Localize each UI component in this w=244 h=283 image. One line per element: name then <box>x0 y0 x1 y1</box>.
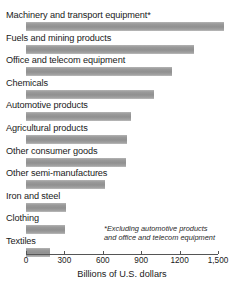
plot-area: Machinery and transport equipment*Fuels … <box>0 0 244 254</box>
bar <box>26 67 172 76</box>
x-axis-tick-label: 1200 <box>170 256 188 266</box>
x-axis-tick-label: 900 <box>134 256 148 266</box>
bar-group: Agricultural products <box>0 123 244 146</box>
x-axis-tick-label: 300 <box>58 256 72 266</box>
footnote-line-1: *Excluding automotive products <box>104 224 240 233</box>
bar-category-label: Automotive products <box>6 100 88 111</box>
bar-category-label: Machinery and transport equipment* <box>6 10 151 21</box>
bar-track <box>26 90 154 99</box>
bar-group: Fuels and mining products <box>0 33 244 56</box>
bar-track <box>26 135 127 144</box>
bar <box>26 158 126 167</box>
bar-category-label: Chemicals <box>6 78 48 89</box>
x-axis-tick-label: 0 <box>24 256 29 266</box>
bar-track <box>26 112 131 121</box>
bar <box>26 135 127 144</box>
footnote-line-2: and office and telecom equipment <box>104 233 240 242</box>
x-axis: 030060090012001,500 Billions of U.S. dol… <box>0 254 244 283</box>
bar-category-label: Agricultural products <box>6 123 88 134</box>
bar-group: Other consumer goods <box>0 146 244 169</box>
bar-category-label: Clothing <box>6 213 39 224</box>
x-axis-tick-label: 600 <box>96 256 110 266</box>
x-axis-tick <box>103 251 104 254</box>
bar-category-label: Other consumer goods <box>6 146 97 157</box>
bar <box>26 90 154 99</box>
x-axis-tick <box>180 251 181 254</box>
chart-footnote: *Excluding automotive products and offic… <box>104 224 240 242</box>
bar-group: Iron and steel <box>0 191 244 214</box>
bar-track <box>26 180 105 189</box>
bar-track <box>26 22 224 31</box>
bar-category-label: Office and telecom equipment <box>6 55 125 66</box>
x-axis-tick <box>218 251 219 254</box>
bar <box>26 203 66 212</box>
bar-category-label: Iron and steel <box>6 191 60 202</box>
bar-group: Office and telecom equipment <box>0 55 244 78</box>
bar-track <box>26 67 172 76</box>
bar-group: Machinery and transport equipment* <box>0 10 244 33</box>
bar-category-label: Textiles <box>6 236 36 247</box>
x-axis-title: Billions of U.S. dollars <box>0 268 244 280</box>
bar-track <box>26 203 66 212</box>
x-axis-tick <box>64 251 65 254</box>
horizontal-bar-chart: Machinery and transport equipment*Fuels … <box>0 0 244 283</box>
bar <box>26 22 224 31</box>
bar-group: Automotive products <box>0 100 244 123</box>
x-axis-tick <box>141 251 142 254</box>
bar-category-label: Other semi-manufactures <box>6 168 107 179</box>
x-axis-line <box>26 254 218 255</box>
bar-group: Other semi-manufactures <box>0 168 244 191</box>
bar-group: Chemicals <box>0 78 244 101</box>
bar <box>26 45 194 54</box>
bar-track <box>26 158 126 167</box>
bar-category-label: Fuels and mining products <box>6 33 111 44</box>
bar-track <box>26 45 194 54</box>
bar <box>26 225 65 234</box>
x-axis-tick <box>26 251 27 254</box>
bar <box>26 180 105 189</box>
x-axis-tick-label: 1,500 <box>208 256 229 266</box>
bar-track <box>26 225 65 234</box>
bar <box>26 112 131 121</box>
